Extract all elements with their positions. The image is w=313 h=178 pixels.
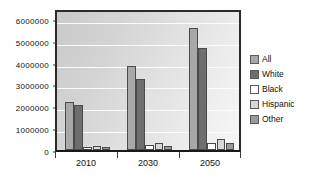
bar-black-2030: [145, 145, 154, 150]
bar-white-2010: [74, 105, 83, 150]
legend-label: Hispanic: [262, 100, 295, 109]
y-axis-tick-label: 3000000: [16, 82, 49, 91]
y-axis: 0100000020000003000000400000050000006000…: [0, 10, 53, 152]
bar-group: [119, 12, 181, 150]
x-axis-tick-label: 2030: [138, 158, 158, 168]
bar-white-2050: [198, 48, 207, 150]
chart-legend: AllWhiteBlackHispanicOther: [250, 52, 312, 127]
bar-black-2050: [207, 143, 216, 150]
legend-label: White: [262, 70, 284, 79]
bar-chart-figure: 0100000020000003000000400000050000006000…: [0, 0, 313, 178]
bar-black-2010: [83, 147, 92, 150]
x-axis-tick-label: 2010: [76, 158, 96, 168]
legend-label: Black: [262, 85, 283, 94]
legend-label: Other: [262, 115, 283, 124]
bar-group: [57, 12, 119, 150]
bar-group: [181, 12, 241, 150]
legend-item-white[interactable]: White: [250, 67, 312, 81]
y-axis-tick-label: 4000000: [16, 60, 49, 69]
legend-item-black[interactable]: Black: [250, 82, 312, 96]
legend-swatch-icon: [250, 55, 259, 64]
x-axis-labels: 201020302050: [55, 158, 241, 174]
bar-all-2010: [65, 102, 74, 150]
legend-swatch-icon: [250, 100, 259, 109]
y-axis-tick-label: 0: [44, 148, 49, 157]
plot-area: [55, 10, 241, 152]
bar-hispanic-2030: [155, 143, 164, 150]
bar-hispanic-2050: [217, 139, 226, 150]
legend-item-hispanic[interactable]: Hispanic: [250, 97, 312, 111]
y-axis-tick-label: 5000000: [16, 38, 49, 47]
bar-hispanic-2010: [93, 146, 102, 150]
legend-swatch-icon: [250, 115, 259, 124]
y-axis-tick-label: 2000000: [16, 104, 49, 113]
bar-all-2050: [189, 28, 198, 150]
legend-label: All: [262, 55, 271, 64]
legend-item-other[interactable]: Other: [250, 112, 312, 126]
legend-swatch-icon: [250, 70, 259, 79]
bar-white-2030: [136, 79, 145, 150]
bar-other-2050: [226, 143, 235, 150]
bar-other-2030: [164, 146, 173, 150]
legend-swatch-icon: [250, 85, 259, 94]
bar-other-2010: [102, 147, 111, 150]
x-axis-tick-label: 2050: [200, 158, 220, 168]
y-axis-tick-label: 6000000: [16, 16, 49, 25]
bar-all-2030: [127, 66, 136, 150]
legend-item-all[interactable]: All: [250, 52, 312, 66]
y-axis-tick-label: 1000000: [16, 126, 49, 135]
